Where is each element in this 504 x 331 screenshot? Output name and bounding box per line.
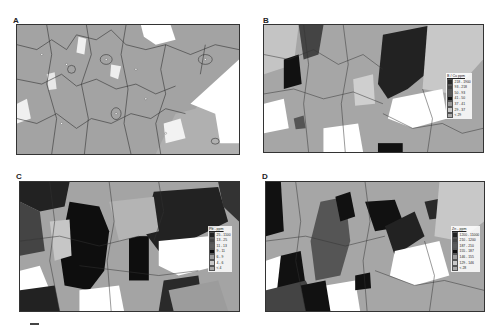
- legend-range: 4 - 6: [217, 261, 224, 266]
- legend-row: < 29: [447, 113, 471, 119]
- map-a-graphic: [17, 25, 239, 154]
- legend-row: < 4: [209, 266, 231, 272]
- legend-range: < 28: [460, 266, 467, 271]
- legend-range: < 4: [217, 266, 222, 271]
- legend-range: 29 - 37: [455, 108, 466, 113]
- legend-range: 25 - 1100: [217, 233, 231, 238]
- legend-range: 187 - 210: [460, 244, 474, 249]
- legend-range: 218 - 1900: [455, 80, 471, 85]
- legend-title: Pb - ppm: [209, 227, 231, 232]
- legend-c: Pb - ppm 25 - 1100 13 - 25 11 - 13 9 - 1…: [208, 226, 232, 272]
- legend-range: 129 - 146: [460, 261, 474, 266]
- legend-swatch: [209, 266, 215, 272]
- legend-range: 1200 - 11000: [460, 233, 480, 238]
- map-panel-d: Zn - ppm 1200 - 11000 210 - 1200 187 - 2…: [265, 181, 485, 312]
- legend-range: 13 - 25: [217, 238, 228, 243]
- legend-range: 155 - 187: [460, 249, 474, 254]
- legend-range: 93 - 218: [455, 85, 467, 90]
- legend-range: 50 - 93: [455, 91, 466, 96]
- legend-range: 41 - 50: [455, 96, 466, 101]
- legend-range: 6 - 9: [217, 255, 224, 260]
- legend-b: B / Cu ppm 218 - 1900 93 - 218 50 - 93 4…: [446, 73, 472, 119]
- legend-title: B / Cu ppm: [447, 74, 471, 79]
- legend-range: 37 - 41: [455, 102, 466, 107]
- legend-swatch: [452, 266, 458, 272]
- legend-range: < 29: [455, 113, 462, 118]
- panel-label-c: C: [16, 172, 22, 181]
- map-panel-c: Pb - ppm 25 - 1100 13 - 25 11 - 13 9 - 1…: [19, 181, 240, 312]
- legend-d: Zn - ppm 1200 - 11000 210 - 1200 187 - 2…: [451, 226, 480, 272]
- legend-range: 210 - 1200: [460, 238, 476, 243]
- map-c-graphic: [20, 182, 239, 311]
- panel-label-d: D: [262, 172, 268, 181]
- legend-range: 146 - 155: [460, 255, 474, 260]
- legend-swatch: [447, 113, 453, 119]
- legend-title: Zn - ppm: [452, 227, 479, 232]
- map-panel-a: [16, 24, 240, 155]
- legend-range: 9 - 11: [217, 249, 225, 254]
- legend-row: < 28: [452, 266, 479, 272]
- footer-mark: [30, 323, 39, 325]
- legend-range: 11 - 13: [217, 244, 227, 249]
- map-panel-b: B / Cu ppm 218 - 1900 93 - 218 50 - 93 4…: [263, 24, 484, 153]
